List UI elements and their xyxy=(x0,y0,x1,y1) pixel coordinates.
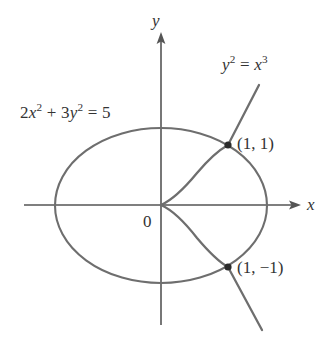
curve-eq-equals: = xyxy=(240,55,250,74)
curve-eq-var-y: y xyxy=(222,55,230,74)
ellipse-eq-equals: = xyxy=(88,103,98,122)
figure-canvas xyxy=(0,0,332,343)
ellipse-equation-label: 2x2 + 3y2 = 5 xyxy=(20,104,111,121)
y-axis-label: y xyxy=(152,12,160,29)
ellipse-eq-exp-x: 2 xyxy=(36,101,42,113)
intersection-point-marker-upper xyxy=(224,141,231,148)
point-label-upper: (1, 1) xyxy=(237,135,274,152)
point-label-lower: (1, −1) xyxy=(237,259,283,276)
ellipse-eq-rhs: 5 xyxy=(102,103,111,122)
origin-label: 0 xyxy=(143,213,152,230)
curve-equation-label: y2 = x3 xyxy=(222,56,268,73)
ellipse-eq-plus: + xyxy=(47,103,57,122)
curve-eq-exp-y: 2 xyxy=(230,53,236,65)
ellipse-eq-coef-y: 3 xyxy=(61,103,70,122)
x-axis-label: x xyxy=(307,196,315,213)
curve-eq-exp-x: 3 xyxy=(262,53,268,65)
intersection-point-marker-lower xyxy=(224,263,231,270)
curve-eq-var-x: x xyxy=(254,55,262,74)
math-figure: 2x2 + 3y2 = 5 y2 = x3 (1, 1) (1, −1) x y… xyxy=(0,0,332,343)
ellipse-eq-coef-x: 2 xyxy=(20,103,29,122)
ellipse-eq-exp-y: 2 xyxy=(77,101,83,113)
